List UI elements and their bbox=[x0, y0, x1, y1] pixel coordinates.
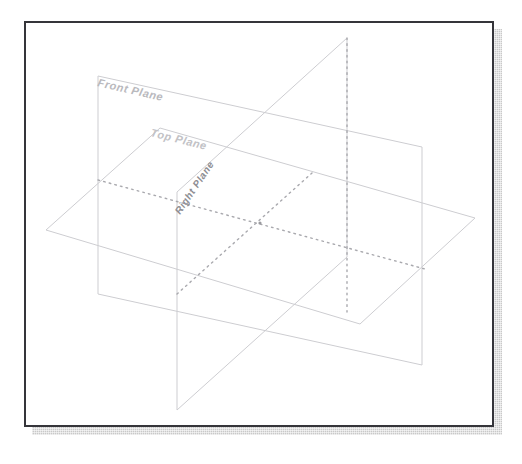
front-top-intersection-line bbox=[98, 180, 425, 269]
planes-scene: Front Plane Top Plane Right Plane bbox=[24, 21, 494, 427]
reference-planes-illustration: Front Plane Top Plane Right Plane bbox=[0, 0, 522, 464]
origin-point bbox=[258, 221, 261, 224]
top-plane-group[interactable] bbox=[46, 128, 475, 324]
illustration-frame: Front Plane Top Plane Right Plane bbox=[24, 21, 494, 427]
intersection-lines-group bbox=[98, 38, 425, 312]
plane-labels-group: Front Plane Top Plane Right Plane bbox=[97, 76, 217, 216]
top-plane-outline bbox=[46, 128, 475, 324]
right-plane-label: Right Plane bbox=[173, 159, 217, 216]
illustration-canvas: Front Plane Top Plane Right Plane bbox=[24, 21, 494, 427]
front-plane-label: Front Plane bbox=[97, 76, 165, 103]
top-plane-label: Top Plane bbox=[150, 126, 209, 152]
